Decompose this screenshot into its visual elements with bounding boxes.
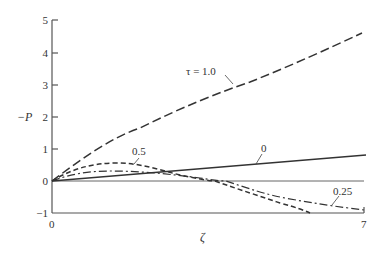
x-axis-label: ζ	[200, 230, 206, 244]
leader-tau-0.5	[134, 158, 139, 164]
y-axis-label: −P	[17, 110, 33, 124]
ytick-label-1: 1	[43, 143, 49, 155]
leader-tau-0.25	[332, 196, 339, 205]
leaders	[134, 75, 339, 205]
ytick-label-2: 2	[43, 111, 49, 123]
label-tau-0: 0	[261, 142, 267, 154]
axes	[52, 20, 364, 213]
leader-tau-1.0	[225, 75, 233, 84]
ytick-label-0: 0	[43, 175, 49, 187]
chart: 5 4 3 2 1 0 −1 0 7 −P ζ τ = 1.0 0.5 0 0.…	[0, 0, 380, 255]
label-tau-0.25: 0.25	[333, 185, 353, 197]
ytick-label-5: 5	[43, 14, 49, 26]
ytick-label-4: 4	[43, 47, 49, 59]
leader-tau-0	[256, 154, 262, 164]
ytick-label-3: 3	[43, 79, 49, 91]
ytick-label-m1: −1	[36, 207, 48, 219]
xtick-label-0: 0	[49, 218, 55, 230]
label-tau-1.0: τ = 1.0	[186, 65, 216, 77]
xtick-label-7: 7	[361, 218, 367, 230]
y-tick-labels: 5 4 3 2 1 0 −1	[36, 14, 48, 219]
curves	[52, 33, 366, 213]
curve-tau-0	[52, 155, 366, 181]
label-tau-0.5: 0.5	[132, 145, 146, 157]
